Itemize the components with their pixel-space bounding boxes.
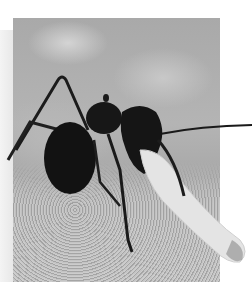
- ant-gaster: [44, 122, 96, 194]
- ant-leg-mid-2: [94, 140, 120, 206]
- ant-thorax: [86, 102, 122, 134]
- ant-petiole: [103, 94, 109, 102]
- ant-antenna-right: [160, 125, 252, 134]
- ant-illustration: [0, 0, 252, 282]
- larva: [140, 150, 245, 262]
